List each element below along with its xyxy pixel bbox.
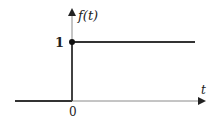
point-marker — [69, 39, 75, 45]
origin-tick-label: 0 — [69, 105, 77, 119]
step-function-plot: f(t) t 0 1 — [0, 0, 215, 125]
x-axis-arrow-icon — [198, 97, 206, 105]
x-axis-label: t — [201, 83, 206, 97]
y-tick-label-one: 1 — [55, 35, 64, 50]
y-axis-arrow-icon — [68, 8, 76, 16]
y-axis-label: f(t) — [77, 8, 98, 23]
